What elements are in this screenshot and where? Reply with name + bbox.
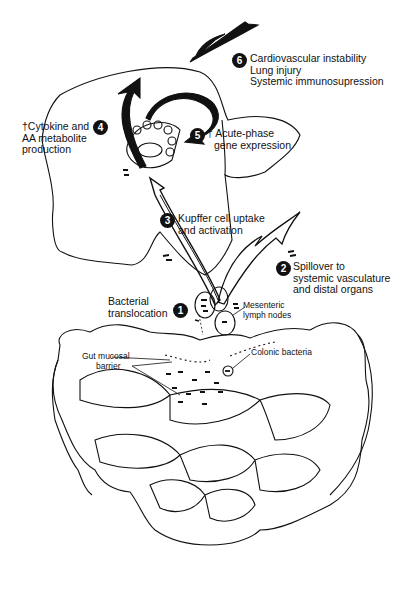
colon-descending [330, 335, 372, 495]
step-2-label: Spillover to systemic vasculature and di… [293, 261, 390, 296]
lymph-node-left [195, 292, 215, 318]
step-5-badge: 5 [190, 128, 205, 143]
step-4-line-3: production [22, 144, 89, 156]
gut-mucosal-barrier-label: Gut mucosal barrier [82, 352, 130, 371]
step-1-label: Bacterial translocation [108, 296, 168, 319]
mesenteric-line-2: lymph nodes [243, 311, 291, 321]
step-3-line-2: and activation [178, 225, 265, 237]
gut-bacteria [166, 372, 223, 404]
step-1-line-2: translocation [108, 308, 168, 320]
step-5-label: † Acute-phase gene expression [207, 128, 291, 151]
step-5-line-1: † Acute-phase [207, 128, 291, 140]
colonic-bacteria-label: Colonic bacteria [251, 348, 312, 358]
step-5-line-2: gene expression [207, 140, 291, 152]
step-6-label: Cardiovascular instability Lung injury S… [250, 53, 384, 88]
step-2-line-3: and distal organs [293, 284, 390, 296]
arrow-to-liver [150, 178, 220, 305]
step-3-badge: 3 [160, 213, 175, 228]
step-4-line-1: †Cytokine and [22, 121, 89, 133]
lymph-node-right [215, 311, 235, 335]
step-6-line-1: Cardiovascular instability [250, 53, 384, 65]
step-4-badge: 4 [93, 120, 108, 135]
mesenteric-lymph-nodes-label: Mesenteric lymph nodes [243, 301, 291, 320]
step-6-line-3: Systemic immunosupression [250, 76, 384, 88]
step-2-badge: 2 [276, 261, 291, 276]
step-3-line-1: Kupffer cell uptake [178, 213, 265, 225]
diagram-illustration [0, 0, 410, 608]
barrier-line-2: barrier [82, 362, 130, 372]
arrow-swoosh-top [190, 22, 258, 62]
step-3-label: Kupffer cell uptake and activation [178, 213, 265, 236]
step-6-badge: 6 [232, 53, 247, 68]
step-2-line-1: Spillover to [293, 261, 390, 273]
step-4-label: †Cytokine and AA metabolite production [22, 121, 89, 156]
colon-ascending [52, 360, 92, 495]
step-1-line-1: Bacterial [108, 296, 168, 308]
step-1-badge: 1 [173, 303, 188, 318]
